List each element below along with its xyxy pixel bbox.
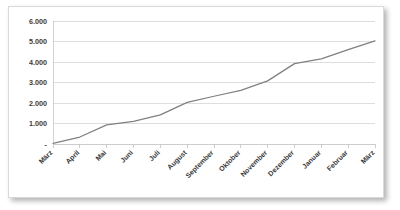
- line-chart-svg: -1.0002.0003.0004.0005.0006.000 MärzApri…: [9, 7, 385, 199]
- y-axis-labels: -1.0002.0003.0004.0005.0006.000: [29, 17, 48, 149]
- x-axis-labels: MärzAprilMaiJuniJuliAugustSeptemberOktob…: [37, 148, 376, 180]
- x-axis-label: Dezember: [267, 149, 296, 178]
- x-axis-label: Januar: [301, 149, 322, 170]
- x-axis-label: April: [64, 149, 81, 166]
- y-axis-label: 5.000: [29, 37, 47, 46]
- y-axis-label: 1.000: [29, 119, 47, 128]
- chart-plot-area: -1.0002.0003.0004.0005.0006.000 MärzApri…: [9, 7, 383, 197]
- y-axis-label: 3.000: [29, 78, 47, 87]
- data-series-line: [53, 41, 375, 144]
- x-axis-label: Juli: [148, 149, 162, 163]
- chart-panel: -1.0002.0003.0004.0005.0006.000 MärzApri…: [8, 6, 384, 198]
- x-axis-label: Oktober: [218, 149, 242, 173]
- x-axis-label: März: [359, 148, 376, 165]
- x-axis-label: September: [184, 149, 215, 180]
- x-axis-label: März: [37, 148, 54, 165]
- x-axis-label: Juni: [119, 149, 134, 164]
- x-axis-label: Mai: [94, 149, 107, 162]
- gridlines: [53, 21, 375, 144]
- x-axis-label: August: [166, 148, 189, 171]
- y-axis-label: 6.000: [29, 17, 47, 26]
- y-axis-label: -: [45, 140, 48, 149]
- x-axis-label: Februar: [325, 149, 349, 173]
- x-axis-ticks: [53, 144, 375, 148]
- x-axis-label: November: [239, 149, 268, 178]
- y-axis-label: 4.000: [29, 58, 47, 67]
- y-axis-label: 2.000: [29, 99, 47, 108]
